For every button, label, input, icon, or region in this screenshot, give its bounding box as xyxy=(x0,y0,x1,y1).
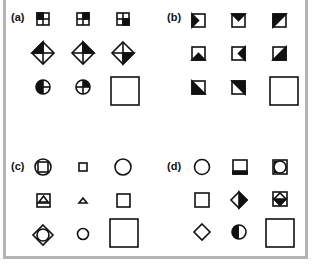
square-with-diamond-icon xyxy=(273,192,287,206)
missing-answer-box xyxy=(111,77,139,105)
panel-a xyxy=(32,13,139,105)
missing-answer-box xyxy=(110,219,138,247)
quadrant-circle-icon xyxy=(76,80,90,94)
square-with-half-circle-icon xyxy=(273,160,287,174)
circle-with-square-icon xyxy=(35,159,51,175)
half-filled-circle-icon xyxy=(232,225,246,239)
small-circle-icon xyxy=(78,229,89,240)
quadrant-square-icon xyxy=(37,13,49,25)
quadrant-diamond-icon xyxy=(72,42,94,64)
diamond-icon xyxy=(194,224,210,240)
circle-icon xyxy=(195,160,210,175)
half-filled-diamond-icon xyxy=(231,192,247,208)
square-icon xyxy=(195,193,209,207)
square-with-triangle-icon xyxy=(37,194,50,207)
panel-b xyxy=(192,14,298,105)
quadrant-circle-icon xyxy=(36,80,50,94)
triangle-icon xyxy=(79,198,87,203)
quadrant-square-icon xyxy=(117,13,129,25)
half-square-icon xyxy=(273,47,286,60)
panel-c xyxy=(33,159,138,247)
notched-square-icon xyxy=(232,47,245,60)
matrix-figure xyxy=(0,0,316,266)
square-icon xyxy=(117,194,130,207)
half-square-icon xyxy=(232,81,245,94)
small-square-icon xyxy=(79,163,87,171)
quadrant-diamond-icon xyxy=(32,42,54,64)
quadrant-square-icon xyxy=(77,13,89,25)
missing-answer-box xyxy=(266,219,294,247)
panel-d xyxy=(194,160,294,248)
notched-square-icon xyxy=(232,14,245,27)
circle-icon xyxy=(115,159,131,175)
notched-square-icon xyxy=(192,47,205,60)
half-square-icon xyxy=(273,14,286,27)
diamond-with-circle-icon xyxy=(33,225,53,245)
half-square-icon xyxy=(192,81,205,94)
notched-square-icon xyxy=(192,14,205,27)
quadrant-diamond-icon xyxy=(112,42,134,64)
square-bottom-bar-icon xyxy=(233,160,247,174)
missing-answer-box xyxy=(270,77,298,105)
